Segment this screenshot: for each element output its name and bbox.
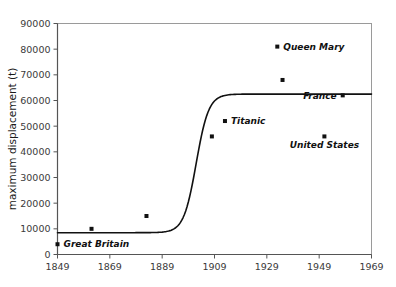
y-axis-title: maximum displacement (t) [6,68,18,211]
data-point [281,78,285,82]
displacement-scatter-chart: 0100002000030000400005000060000700008000… [0,0,396,287]
chart-figure: 0100002000030000400005000060000700008000… [0,0,396,287]
data-point [341,93,345,97]
y-tick-label: 40000 [20,146,50,157]
data-point-label: United States [290,140,360,150]
x-tick-label: 1909 [202,261,226,272]
data-point [90,227,94,231]
data-point [223,119,227,123]
y-tick-label: 70000 [20,69,50,80]
data-point-label: Great Britain [64,239,130,249]
y-tick-label: 30000 [20,172,50,183]
x-tick-label: 1869 [98,261,122,272]
x-tick-label: 1889 [150,261,174,272]
data-point [210,134,214,138]
y-tick-label: 10000 [20,223,50,234]
y-tick-label: 60000 [20,95,50,106]
data-point-label: France [303,91,337,101]
x-tick-label: 1849 [45,261,69,272]
y-tick-label: 90000 [20,18,50,29]
data-point [275,45,279,49]
y-tick-label: 80000 [20,44,50,55]
data-point-label: Titanic [231,116,266,126]
x-tick-label: 1969 [359,261,383,272]
data-point-label: Queen Mary [283,42,345,52]
y-tick-label: 20000 [20,198,50,209]
data-point [144,214,148,218]
x-tick-label: 1929 [255,261,279,272]
y-tick-label: 50000 [20,121,50,132]
x-tick-label: 1949 [307,261,331,272]
data-point [56,242,60,246]
data-point [322,134,326,138]
y-tick-label: 0 [44,249,50,260]
